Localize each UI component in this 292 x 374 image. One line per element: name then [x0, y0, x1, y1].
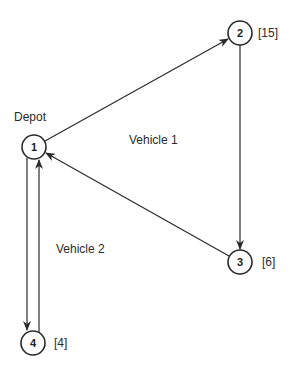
node-2-label: 2: [228, 26, 252, 40]
node-2-demand: [15]: [258, 26, 278, 40]
vehicle-2-label: Vehicle 2: [56, 242, 105, 256]
node-4-label: 4: [21, 336, 45, 350]
routing-diagram: [0, 0, 292, 374]
node-3-demand: [6]: [262, 255, 275, 269]
edge-3-to-1: [46, 153, 229, 256]
edge-1-to-2: [45, 39, 228, 141]
depot-label: Depot: [14, 110, 46, 124]
node-3-label: 3: [228, 255, 252, 269]
node-4-demand: [4]: [54, 336, 67, 350]
node-1-label: 1: [22, 140, 46, 154]
vehicle-1-label: Vehicle 1: [129, 133, 178, 147]
